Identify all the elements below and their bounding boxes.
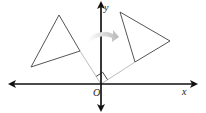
y-axis-label: y — [103, 2, 109, 13]
rotation-arrow-icon — [88, 30, 119, 42]
origin-label: O — [93, 87, 100, 98]
rotation-diagram: y x O — [0, 0, 206, 113]
preimage-triangle — [31, 15, 80, 67]
x-axis-label: x — [181, 86, 187, 97]
image-triangle — [120, 12, 170, 62]
